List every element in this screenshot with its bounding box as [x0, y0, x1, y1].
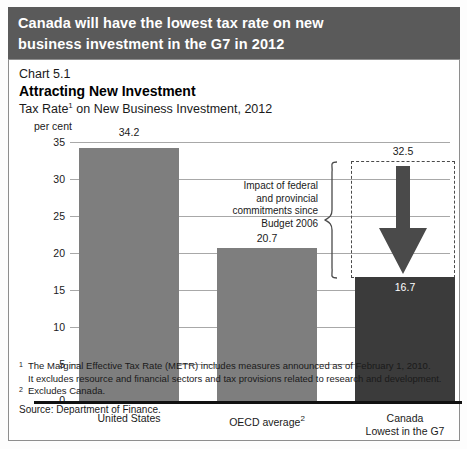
y-tick-15: 15 — [39, 284, 65, 296]
chart-subtitle-prefix: Tax Rate — [19, 102, 68, 116]
footnote-2-mark: 2 — [19, 384, 23, 397]
chart-subtitle-rest: on New Business Investment, 2012 — [73, 102, 272, 116]
footnote-2: 2 Excludes Canada. — [19, 385, 451, 398]
y-tick-10: 10 — [39, 321, 65, 333]
footnote-1-continuation: It excludes resource and financial secto… — [19, 373, 451, 386]
gridline-35 — [70, 142, 450, 143]
footnote-1: 1 The Marginal Effective Tax Rate (METR)… — [19, 360, 451, 373]
y-tick-20: 20 — [39, 247, 65, 259]
footnotes: 1 The Marginal Effective Tax Rate (METR)… — [19, 360, 451, 416]
chart-title: Attracting New Investment — [19, 83, 196, 99]
impact-annotation-line-4: Budget 2006 — [170, 218, 318, 231]
down-arrow-icon — [377, 166, 429, 276]
y-tick-25: 25 — [39, 210, 65, 222]
impact-annotation-line-3: commitments since — [170, 205, 318, 218]
chart-card: Chart 5.1 Attracting New Investment Tax … — [8, 59, 460, 441]
x-label-oecd-average-text: OECD average — [229, 416, 300, 428]
x-label-canada-subtext: Lowest in the G7 — [355, 425, 455, 438]
banner-line-1: Canada will have the lowest tax rate on … — [18, 13, 460, 34]
footnote-1-line-1: The Marginal Effective Tax Rate (METR) i… — [28, 360, 431, 371]
bar-value-canada: 16.7 — [355, 281, 455, 293]
banner-line-2: business investment in the G7 in 2012 — [18, 34, 460, 55]
impact-annotation: Impact of federal and provincial commitm… — [170, 180, 318, 230]
impact-annotation-line-1: Impact of federal — [170, 180, 318, 193]
chart-subtitle: Tax Rate1 on New Business Investment, 20… — [19, 101, 272, 116]
source-line: Source: Department of Finance. — [19, 404, 451, 417]
bar-value-canada-counterfactual: 32.5 — [353, 145, 453, 157]
footnote-1-mark: 1 — [19, 359, 23, 372]
header-banner: Canada will have the lowest tax rate on … — [8, 7, 460, 59]
impact-brace-icon — [323, 160, 339, 280]
impact-annotation-line-2: and provincial — [170, 193, 318, 206]
y-axis-units-label: per cent — [34, 120, 72, 132]
footnote-2-line-1: Excludes Canada. — [28, 385, 105, 396]
chart-number: Chart 5.1 — [19, 67, 70, 81]
bar-value-united-states: 34.2 — [79, 126, 179, 138]
y-tick-30: 30 — [39, 173, 65, 185]
screenshot-root: Canada will have the lowest tax rate on … — [0, 0, 467, 449]
y-tick-35: 35 — [39, 136, 65, 148]
bar-value-oecd-average: 20.7 — [217, 232, 317, 244]
